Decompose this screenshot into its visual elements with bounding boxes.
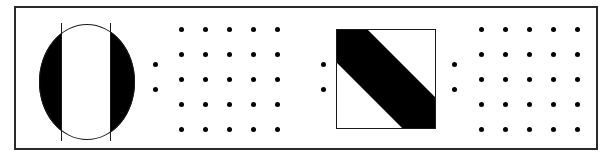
dot (153, 87, 158, 92)
dot (275, 127, 280, 132)
dot (575, 127, 580, 132)
dot (575, 52, 580, 57)
dot (227, 27, 232, 32)
figure-panel (16, 8, 596, 148)
dot (251, 102, 256, 107)
dot (251, 77, 256, 82)
circle-glyph (39, 24, 135, 140)
dot (321, 87, 326, 92)
dot (479, 127, 484, 132)
dot (551, 102, 556, 107)
dot (251, 27, 256, 32)
dot (527, 127, 532, 132)
dot (527, 27, 532, 32)
square-glyph (336, 29, 436, 129)
square-white-triangle-bottom-left (337, 30, 435, 128)
figure-canvas (0, 0, 612, 162)
dot (203, 77, 208, 82)
dot (527, 102, 532, 107)
dot (452, 62, 457, 67)
dot (203, 52, 208, 57)
dot (251, 127, 256, 132)
dot (275, 102, 280, 107)
dot (503, 127, 508, 132)
dot (179, 27, 184, 32)
dot (179, 127, 184, 132)
dot (275, 77, 280, 82)
dot (551, 77, 556, 82)
dot (527, 52, 532, 57)
dot (251, 52, 256, 57)
dot (503, 52, 508, 57)
dot (551, 27, 556, 32)
dot (575, 77, 580, 82)
dot (179, 52, 184, 57)
dot (179, 102, 184, 107)
dot (321, 62, 326, 67)
dot (203, 27, 208, 32)
dot (227, 127, 232, 132)
dot (203, 102, 208, 107)
dot (575, 27, 580, 32)
dot (452, 87, 457, 92)
dot (527, 77, 532, 82)
dot (575, 102, 580, 107)
dot (551, 52, 556, 57)
circle-white-band (61, 23, 111, 141)
dot (203, 127, 208, 132)
dot (179, 77, 184, 82)
dot (153, 62, 158, 67)
dot (551, 127, 556, 132)
dot (479, 52, 484, 57)
dot (503, 102, 508, 107)
dot (227, 52, 232, 57)
dot (275, 52, 280, 57)
figure-frame (14, 6, 598, 150)
dot (227, 102, 232, 107)
dot (479, 77, 484, 82)
dot (275, 27, 280, 32)
dot (503, 27, 508, 32)
dot (503, 77, 508, 82)
dot (479, 102, 484, 107)
dot (479, 27, 484, 32)
dot (227, 77, 232, 82)
